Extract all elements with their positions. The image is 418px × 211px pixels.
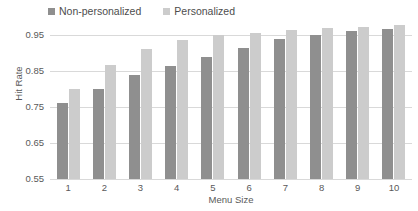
y-tick-label: 0.55 (4, 174, 44, 184)
x-tick-label: 4 (159, 182, 195, 194)
legend-entry-personalized: Personalized (163, 5, 235, 17)
bar-personalized (177, 40, 188, 179)
bar-non-personalized (310, 35, 321, 179)
bar-non-personalized (274, 39, 285, 179)
bar-non-personalized (346, 31, 357, 179)
bar-group (376, 35, 412, 179)
bar-personalized (250, 33, 261, 179)
bar-group (231, 35, 267, 179)
bar-non-personalized (238, 48, 249, 179)
x-axis-line (50, 179, 412, 180)
bar-group (195, 35, 231, 179)
x-axis-tick-labels: 12345678910 (50, 182, 412, 194)
bar-personalized (394, 25, 405, 179)
bar-groups (50, 35, 412, 179)
x-tick-label: 2 (86, 182, 122, 194)
y-tick-label: 0.75 (4, 102, 44, 112)
x-tick-label: 10 (376, 182, 412, 194)
bar-group (159, 35, 195, 179)
bar-personalized (286, 30, 297, 179)
x-tick-label: 1 (50, 182, 86, 194)
x-axis-title: Menu Size (50, 194, 412, 205)
bar-group (267, 35, 303, 179)
bar-non-personalized (129, 75, 140, 179)
x-tick-label: 5 (195, 182, 231, 194)
legend-entry-non-personalized: Non-personalized (48, 5, 141, 17)
hit-rate-bar-chart: Non-personalized Personalized Hit Rate 0… (0, 0, 418, 211)
legend-label-non-personalized: Non-personalized (59, 5, 141, 17)
x-tick-label: 8 (303, 182, 339, 194)
chart-legend: Non-personalized Personalized (48, 2, 235, 20)
legend-swatch-personalized (163, 8, 170, 15)
bar-group (86, 35, 122, 179)
bar-personalized (322, 28, 333, 179)
bar-non-personalized (165, 66, 176, 179)
x-tick-label: 3 (122, 182, 158, 194)
bar-non-personalized (93, 89, 104, 179)
bar-group (50, 35, 86, 179)
legend-swatch-non-personalized (48, 8, 55, 15)
y-axis-tick-labels: 0.950.850.750.650.55 (0, 0, 44, 211)
bar-non-personalized (201, 57, 212, 179)
bar-personalized (105, 65, 116, 179)
legend-label-personalized: Personalized (174, 5, 235, 17)
y-tick-label: 0.65 (4, 138, 44, 148)
bar-non-personalized (382, 29, 393, 179)
bar-non-personalized (57, 103, 68, 179)
x-tick-label: 7 (267, 182, 303, 194)
bar-personalized (358, 27, 369, 179)
x-tick-label: 9 (340, 182, 376, 194)
bar-group (122, 35, 158, 179)
bar-personalized (69, 89, 80, 179)
y-tick-label: 0.95 (4, 30, 44, 40)
x-tick-label: 6 (231, 182, 267, 194)
bar-group (340, 35, 376, 179)
bar-personalized (213, 35, 224, 179)
bar-group (303, 35, 339, 179)
bar-personalized (141, 49, 152, 179)
plot-area (50, 35, 412, 179)
y-tick-label: 0.85 (4, 66, 44, 76)
